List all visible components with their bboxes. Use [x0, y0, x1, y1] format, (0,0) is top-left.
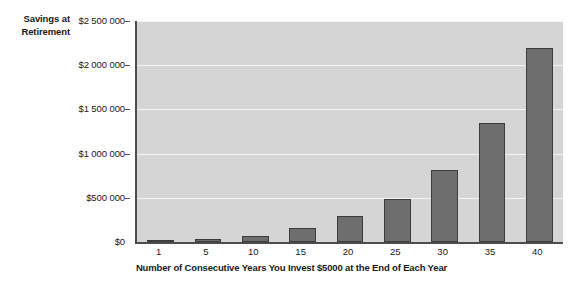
bars-layer [137, 21, 563, 242]
y-axis-tick-labels: $2 500 000$2 000 000$1 500 000$1 000 000… [68, 0, 130, 286]
y-axis-title-line-2: Retirement [2, 25, 70, 38]
x-axis-tick-label: 35 [485, 246, 496, 258]
y-axis-tick-mark [125, 21, 130, 22]
y-axis-tick-label: $1 500 000 [78, 104, 125, 114]
x-axis-tick-label: 1 [156, 246, 161, 258]
y-axis-tick-label: $2 000 000 [78, 60, 125, 70]
y-axis-tick-mark [125, 65, 130, 66]
y-axis-tick-label: $500 000 [86, 193, 125, 203]
bar-10-years [242, 236, 269, 242]
bar-35-years [479, 123, 506, 242]
bar-25-years [384, 199, 411, 242]
y-axis-tick-mark [125, 109, 130, 110]
y-axis-tick-mark [125, 154, 130, 155]
x-axis-tick-label: 5 [203, 246, 208, 258]
x-axis-tick-labels: 1510152025303540 [135, 246, 561, 260]
y-axis-tick-label: $2 500 000 [78, 16, 125, 26]
y-axis-tick-label: $1 000 000 [78, 149, 125, 159]
plot-area [135, 21, 563, 244]
x-axis-tick-label: 10 [248, 246, 259, 258]
x-axis-title: Number of Consecutive Years You Invest $… [0, 262, 583, 273]
bar-40-years [526, 48, 553, 242]
x-axis-tick-label: 15 [295, 246, 306, 258]
x-axis-tick-label: 30 [437, 246, 448, 258]
x-axis-tick-label: 20 [343, 246, 354, 258]
bar-1-years [147, 240, 174, 242]
y-axis-tick-mark [125, 198, 130, 199]
y-axis-title: Savings at Retirement [2, 12, 70, 38]
bar-5-years [195, 239, 222, 242]
bar-30-years [431, 170, 458, 242]
bar-15-years [289, 228, 316, 242]
y-axis-tick-label: $0 [115, 237, 125, 247]
bar-20-years [337, 216, 364, 242]
x-axis-tick-label: 25 [390, 246, 401, 258]
savings-bar-chart: Savings at Retirement $2 500 000$2 000 0… [0, 0, 583, 286]
y-axis-title-line-1: Savings at [2, 12, 70, 25]
x-axis-tick-label: 40 [532, 246, 543, 258]
